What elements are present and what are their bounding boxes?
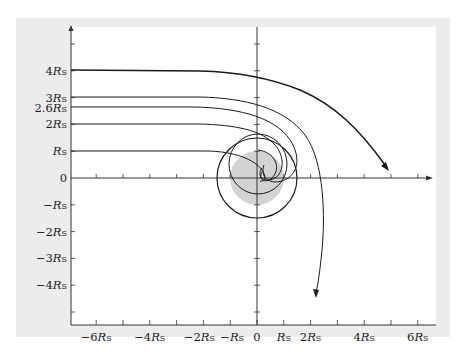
black-hole-light-ray-diagram: −6RS−4RS−2RS−RS0RS2RS4RS6RS 4RS3RS2.6RS2… <box>0 0 461 355</box>
y-tick-label: 0 <box>60 171 67 185</box>
x-tick-label: 0 <box>253 330 260 344</box>
